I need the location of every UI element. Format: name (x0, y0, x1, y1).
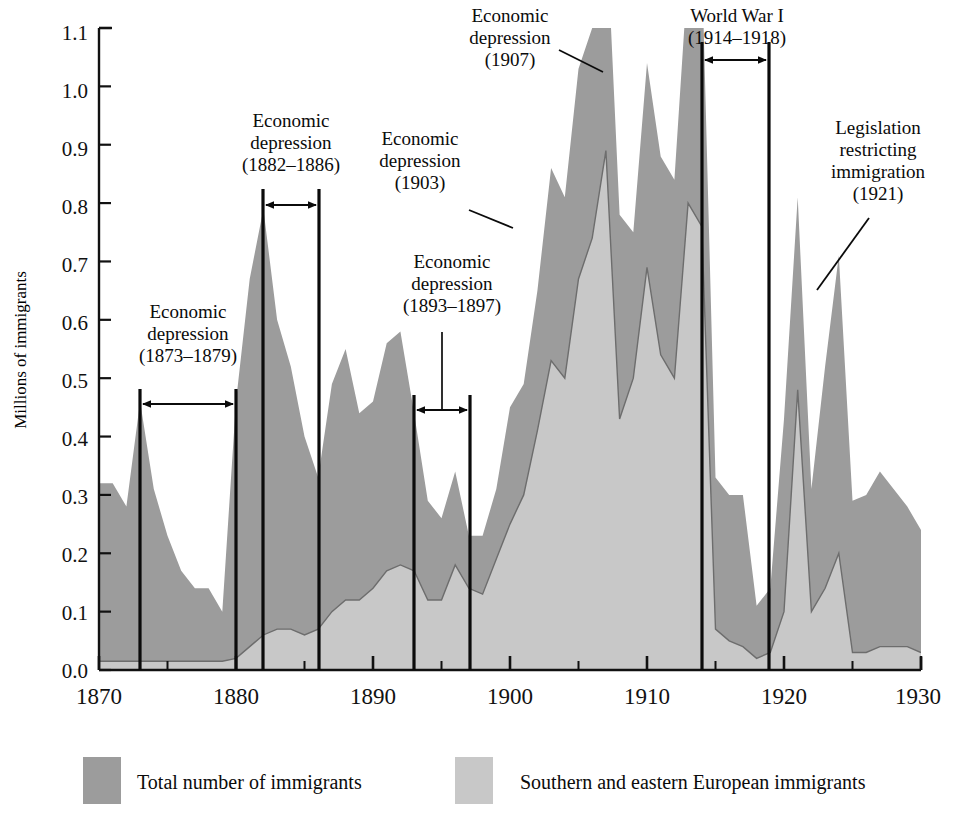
annotation-depression-1907: Economic depression (1907) (469, 5, 603, 72)
annotation-line-3: (1873–1879) (139, 345, 237, 367)
annotation-line-2: restricting (839, 139, 917, 160)
annotation-line-1: Economic (471, 5, 548, 26)
chart-legend: Total number of immigrants Southern and … (83, 757, 866, 804)
annotation-line-2: depression (147, 323, 229, 344)
annotation-line-1: Economic (413, 251, 490, 272)
x-tick-label-1890: 1890 (350, 684, 396, 709)
annotation-depression-1903: Economic depression (1903) (379, 128, 513, 228)
y-tick-label-11: 1.1 (62, 21, 88, 45)
annotation-line-2: depression (250, 132, 332, 153)
legend-label-southern-eastern-european: Southern and eastern European immigrants (520, 771, 866, 794)
annotation-line-1: Economic (149, 301, 226, 322)
y-tick-label-5: 0.5 (62, 369, 88, 393)
y-tick-labels: 0.0 0.1 0.2 0.3 0.4 0.5 0.6 0.7 0.8 0.9 … (62, 21, 89, 683)
annotation-line-1: World War I (690, 5, 784, 26)
annotation-leader-line (469, 210, 513, 228)
annotation-line-3: (1907) (485, 49, 536, 71)
annotation-line-2: depression (469, 27, 551, 48)
legend-swatch-total-immigrants (83, 757, 121, 804)
chart-canvas: 0.0 0.1 0.2 0.3 0.4 0.5 0.6 0.7 0.8 0.9 … (0, 0, 961, 831)
immigration-area-chart-figure: 0.0 0.1 0.2 0.3 0.4 0.5 0.6 0.7 0.8 0.9 … (0, 0, 961, 831)
x-tick-label-1930: 1930 (895, 684, 941, 709)
y-tick-label-8: 0.8 (62, 195, 88, 219)
annotation-line-1: Economic (381, 128, 458, 149)
y-tick-label-7: 0.7 (62, 253, 88, 277)
annotation-legislation-1921: Legislation restricting immigration (192… (817, 117, 925, 290)
y-tick-label-6: 0.6 (62, 311, 88, 335)
x-tick-label-1920: 1920 (761, 684, 807, 709)
annotation-line-1: Economic (252, 110, 329, 131)
y-tick-label-1: 0.1 (62, 601, 88, 625)
x-tick-label-1910: 1910 (624, 684, 670, 709)
annotation-leader-line (817, 218, 869, 290)
y-tick-label-9: 0.9 (62, 137, 88, 161)
annotation-line-2: (1914–1918) (688, 27, 786, 49)
y-tick-label-10: 1.0 (62, 79, 88, 103)
y-tick-label-0: 0.0 (62, 659, 88, 683)
x-tick-label-1870: 1870 (76, 684, 122, 709)
annotation-line-3: (1893–1897) (403, 295, 501, 317)
y-axis-title: Millions of immigrants (11, 271, 30, 429)
annotation-line-3: immigration (831, 161, 925, 182)
annotation-line-2: depression (411, 273, 493, 294)
annotation-line-2: depression (379, 150, 461, 171)
x-tick-labels: 1870 1880 1890 1900 1910 1920 1930 (76, 684, 941, 709)
x-tick-label-1900: 1900 (487, 684, 533, 709)
annotation-line-3: (1903) (395, 172, 446, 194)
y-tick-label-2: 0.2 (62, 543, 88, 567)
legend-label-total-immigrants: Total number of immigrants (137, 771, 362, 794)
y-tick-label-3: 0.3 (62, 485, 88, 509)
legend-swatch-southern-eastern-european (455, 757, 493, 804)
y-tick-label-4: 0.4 (62, 427, 89, 451)
annotation-line-3: (1882–1886) (242, 154, 340, 176)
annotation-line-4: (1921) (853, 183, 904, 205)
x-tick-label-1880: 1880 (213, 684, 259, 709)
annotation-line-1: Legislation (835, 117, 921, 138)
